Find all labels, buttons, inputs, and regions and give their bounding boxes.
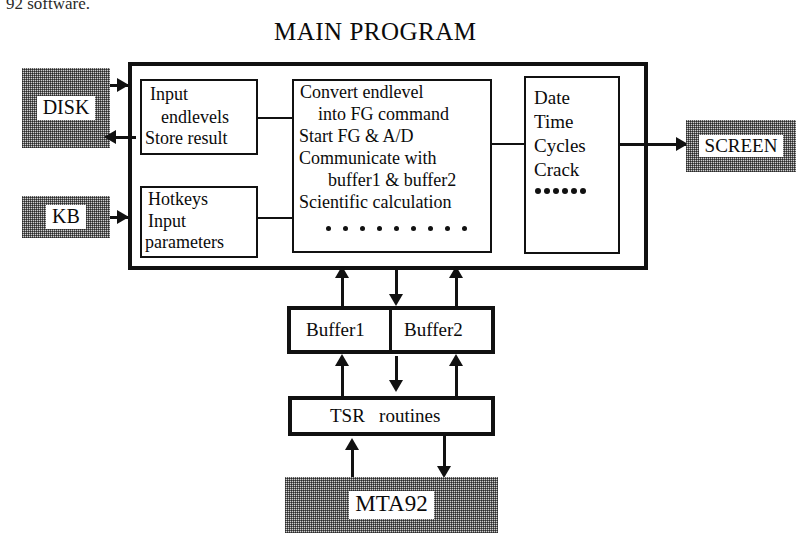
process-line2: into FG command bbox=[318, 104, 449, 126]
tsr-to-buffer1-line bbox=[341, 364, 344, 396]
buffers-to-tsr-line bbox=[395, 356, 398, 382]
hotkeys-line2: Input bbox=[148, 211, 186, 233]
buffer2-to-main-arrowhead bbox=[449, 266, 463, 278]
external-device-kb: KB bbox=[22, 196, 110, 238]
tsr-to-buffer2-line bbox=[455, 364, 458, 396]
process-line1: Convert endlevel bbox=[300, 82, 423, 104]
input-to-process-connector bbox=[258, 117, 292, 119]
main-program-title: MAIN PROGRAM bbox=[274, 18, 477, 46]
process-line3: Start FG & A/D bbox=[299, 126, 414, 148]
output-line3: Cycles bbox=[534, 134, 586, 157]
output-line2: Time bbox=[534, 110, 573, 133]
buffers-to-tsr-arrowhead bbox=[389, 380, 403, 392]
tsr-to-buffer2-arrowhead bbox=[449, 354, 463, 366]
kb-to-main-arrowhead bbox=[117, 210, 129, 224]
process-line5: buffer1 & buffer2 bbox=[328, 170, 456, 192]
mta92-to-tsr-arrowhead bbox=[345, 438, 359, 450]
hotkeys-line1: Hotkeys bbox=[148, 189, 208, 211]
tsr-routines-label: TSR routines bbox=[330, 404, 440, 427]
buffer1-to-main-arrowhead bbox=[335, 266, 349, 278]
external-device-screen: SCREEN bbox=[686, 120, 796, 172]
external-device-disk: DISK bbox=[22, 68, 110, 148]
mta92-label: MTA92 bbox=[349, 491, 433, 518]
process-to-output-connector bbox=[492, 143, 524, 145]
mta92-to-tsr-line bbox=[351, 448, 354, 480]
process-line6: Scientific calculation bbox=[299, 192, 451, 214]
disk-label: DISK bbox=[37, 96, 96, 120]
input-endlevels-line3: Store result bbox=[145, 128, 228, 150]
kb-label: KB bbox=[46, 205, 86, 229]
output-to-mainedge-connector bbox=[620, 143, 648, 146]
output-line1: Date bbox=[534, 86, 570, 109]
hotkeys-line3: parameters bbox=[145, 232, 224, 254]
buffer2-label: Buffer2 bbox=[404, 318, 463, 341]
hotkeys-to-process-connector bbox=[258, 217, 292, 219]
process-line4: Communicate with bbox=[299, 148, 436, 170]
screen-label: SCREEN bbox=[699, 135, 784, 158]
main-to-buffers-arrowhead bbox=[389, 294, 403, 306]
output-line4: Crack bbox=[534, 158, 579, 181]
tsr-to-buffer1-arrowhead bbox=[335, 354, 349, 366]
buffer1-to-main-line bbox=[341, 276, 344, 306]
tsr-to-mta92-line bbox=[443, 436, 446, 468]
process-ellipsis-dots bbox=[326, 226, 479, 231]
page-top-caption: 92 software. bbox=[6, 0, 90, 14]
output-ellipsis-dots bbox=[535, 188, 589, 194]
main-to-disk-arrowhead bbox=[104, 130, 116, 144]
buffer2-to-main-line bbox=[455, 276, 458, 306]
external-device-mta92: MTA92 bbox=[285, 477, 498, 533]
disk-to-main-arrowhead bbox=[117, 78, 129, 92]
diagram-canvas: 92 software. MAIN PROGRAM DISK KB Input … bbox=[0, 0, 809, 556]
input-endlevels-line2: endlevels bbox=[161, 107, 229, 129]
input-endlevels-line1: Input bbox=[150, 84, 188, 106]
buffer1-label: Buffer1 bbox=[306, 318, 365, 341]
main-to-buffers-line bbox=[395, 270, 398, 296]
buffer-divider bbox=[389, 308, 392, 352]
